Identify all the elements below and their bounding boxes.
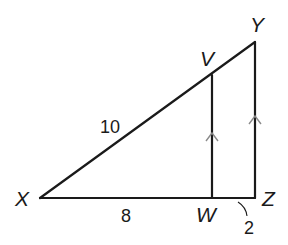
measure-wz: 2 [244,218,254,238]
triangle-diagram: X Y Z V W 10 8 2 [0,0,288,245]
segment-xy [40,42,255,198]
measure-xv: 10 [100,117,120,137]
vertex-label-v: V [200,47,216,70]
vertex-label-y: Y [250,13,266,36]
vertex-label-z: Z [261,187,276,210]
measure-xw: 8 [121,206,131,226]
measure-leader-wz [238,202,247,216]
vertex-label-x: X [14,187,30,210]
vertex-label-w: W [196,203,218,226]
